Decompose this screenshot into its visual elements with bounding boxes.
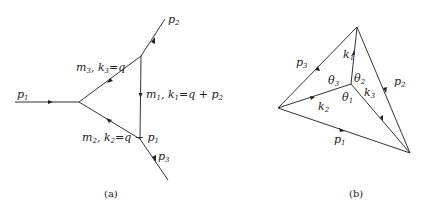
diagram-a: p1 p2 p3 m3, k3=q m1, k1=q + p2 m2, k2=q… [15,13,224,199]
label-k2: k2 [318,100,330,114]
figure: p1 p2 p3 m3, k3=q m1, k1=q + p2 m2, k2=q… [0,0,424,212]
caption-b: (b) [349,188,363,199]
label-p3: p3 [296,56,308,70]
arrow-icon [339,128,345,132]
arrow-icon [106,118,112,123]
label-k1: k1 [343,48,354,62]
line-p2 [141,19,165,56]
arrow-icon [315,66,320,71]
label-m3-k3: m3, k3=q [76,61,125,75]
label-k3: k3 [364,86,376,100]
label-p2: p2 [394,75,406,89]
arrow-icon [139,93,143,98]
edge-k2 [278,84,351,108]
arrow-icon [152,155,156,162]
diagram-b: p3 p2 p1 k1 k2 k3 θ1 θ2 θ3 (b) [278,27,410,199]
label-p1: p1 [334,133,346,147]
caption-a: (a) [104,188,118,199]
label-m1-k1: m1, k1=q + p2 [146,88,224,102]
label-p3: p3 [158,150,170,164]
label-p2: p2 [168,13,180,27]
arrow-icon [48,100,53,104]
label-m2-k2: m2, k2=q − p1 [82,131,159,145]
label-theta1: θ1 [342,91,353,105]
label-theta3: θ3 [328,74,340,88]
label-theta2: θ2 [354,72,366,86]
label-p1: p1 [17,88,29,102]
